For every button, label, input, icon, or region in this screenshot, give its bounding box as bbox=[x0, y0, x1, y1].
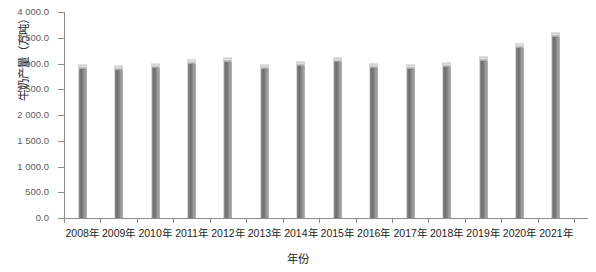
y-axis-tick-label: 2 000.0 bbox=[17, 108, 49, 121]
bar-top-cap bbox=[223, 58, 232, 62]
bar bbox=[296, 61, 305, 218]
plot-area: 4 000.03 500.03 000.02 500.02 000.01 500… bbox=[64, 12, 588, 218]
bar bbox=[78, 64, 87, 219]
x-axis-tick bbox=[246, 218, 247, 223]
bar-top-cap bbox=[479, 57, 488, 61]
x-axis-tick bbox=[356, 218, 357, 223]
y-axis-tick-label: 4 000.0 bbox=[17, 5, 49, 18]
bar-chart: 牛奶产量（万吨） 4 000.03 500.03 000.02 500.02 0… bbox=[0, 0, 596, 272]
bar bbox=[187, 59, 196, 218]
bar-top-cap bbox=[406, 65, 415, 69]
bar-top-cap bbox=[260, 65, 269, 69]
bar-top-cap bbox=[333, 58, 342, 62]
bar-top-cap bbox=[187, 60, 196, 64]
y-axis-tick: 2 500.0 bbox=[58, 89, 64, 90]
bar-top-cap bbox=[114, 66, 123, 70]
y-axis-tick-label: 3 000.0 bbox=[17, 57, 49, 70]
y-axis-tick-label: 2 500.0 bbox=[17, 82, 49, 95]
y-axis-tick: 4 000.0 bbox=[58, 12, 64, 13]
bar-top-cap bbox=[296, 62, 305, 66]
bar-top-cap bbox=[151, 64, 160, 68]
x-axis-tick bbox=[283, 218, 284, 223]
y-axis-tick-label: 1 000.0 bbox=[17, 160, 49, 173]
bar bbox=[333, 57, 342, 218]
y-axis-tick-label: 3 500.0 bbox=[17, 31, 49, 44]
x-axis-tick bbox=[465, 218, 466, 223]
bar bbox=[223, 57, 232, 218]
y-axis-tick-label: 1 500.0 bbox=[17, 134, 49, 147]
x-axis-tick bbox=[173, 218, 174, 223]
y-axis-tick: 500.0 bbox=[58, 192, 64, 193]
bar bbox=[551, 32, 560, 218]
bar bbox=[114, 65, 123, 218]
bar-top-cap bbox=[442, 63, 451, 67]
bar-top-cap bbox=[515, 44, 524, 48]
x-axis-tick bbox=[501, 218, 502, 223]
x-axis-label: 2021年 bbox=[534, 225, 578, 240]
bar bbox=[406, 64, 415, 219]
x-axis-tick bbox=[100, 218, 101, 223]
x-axis-tick bbox=[574, 218, 575, 223]
x-axis-tick bbox=[538, 218, 539, 223]
y-axis-tick: 1 500.0 bbox=[58, 141, 64, 142]
y-axis-line bbox=[64, 12, 65, 218]
bar-top-cap bbox=[78, 65, 87, 69]
bar-top-cap bbox=[551, 33, 560, 37]
x-axis-line bbox=[64, 218, 588, 219]
bar bbox=[260, 64, 269, 218]
x-axis-tick bbox=[319, 218, 320, 223]
y-axis-tick: 3 500.0 bbox=[58, 38, 64, 39]
bar bbox=[442, 62, 451, 218]
bar bbox=[151, 63, 160, 218]
x-axis-tick bbox=[210, 218, 211, 223]
x-axis-tick bbox=[137, 218, 138, 223]
y-axis-tick-label: 500.0 bbox=[25, 185, 49, 198]
x-axis-tick bbox=[64, 218, 65, 223]
x-axis-title: 年份 bbox=[0, 250, 596, 266]
y-axis-tick-label: 0.0 bbox=[36, 211, 49, 224]
x-axis-tick bbox=[392, 218, 393, 223]
y-axis-tick: 2 000.0 bbox=[58, 115, 64, 116]
x-axis-tick bbox=[428, 218, 429, 223]
y-axis-tick: 3 000.0 bbox=[58, 64, 64, 65]
bar bbox=[479, 56, 488, 218]
y-axis-tick: 1 000.0 bbox=[58, 167, 64, 168]
bar bbox=[369, 63, 378, 218]
bar-top-cap bbox=[369, 64, 378, 68]
bar bbox=[515, 43, 524, 218]
